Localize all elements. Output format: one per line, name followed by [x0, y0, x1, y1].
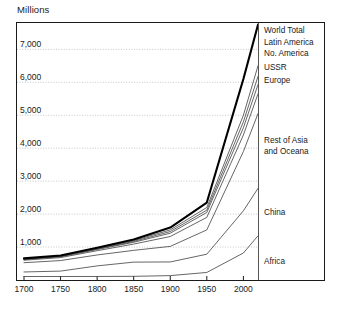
legend-label-no-america: No. America — [264, 49, 309, 58]
x-tick-label: 1800 — [88, 284, 107, 294]
y-tick-label: 7,000 — [20, 39, 41, 49]
y-tick-label: 4,000 — [20, 138, 41, 148]
y-tick-label: 1,000 — [20, 237, 41, 247]
legend-label-world-total: World Total — [264, 26, 305, 35]
legend-label-china: China — [264, 208, 285, 217]
legend-label-latin-america: Latin America — [264, 38, 314, 47]
legend-divider — [258, 23, 259, 280]
y-tick-label: 3,000 — [20, 171, 41, 181]
x-tick-label: 1850 — [124, 284, 143, 294]
legend-label-europe: Europe — [264, 76, 290, 85]
y-tick-label: 6,000 — [20, 72, 41, 82]
y-tick-label: 5,000 — [20, 105, 41, 115]
legend-label-africa: Africa — [264, 257, 285, 266]
y-tick-label: 2,000 — [20, 204, 41, 214]
x-tick-label: 1900 — [161, 284, 180, 294]
x-tick-label: 2000 — [234, 284, 253, 294]
x-tick-label: 1700 — [15, 284, 34, 294]
legend-label-ussr: USSR — [264, 63, 287, 72]
legend-label-and-oceana: and Oceana — [264, 147, 309, 156]
chart-root: Millions 1,0002,0003,0004,0005,0006,0007… — [0, 0, 338, 309]
x-tick-label: 1950 — [197, 284, 216, 294]
legend-label-rest-of-asia: Rest of Asia — [264, 136, 308, 145]
x-tick-label: 1750 — [51, 284, 70, 294]
plot-area — [17, 23, 258, 280]
y-axis-title: Millions — [17, 4, 49, 15]
population-area-chart — [17, 23, 258, 280]
